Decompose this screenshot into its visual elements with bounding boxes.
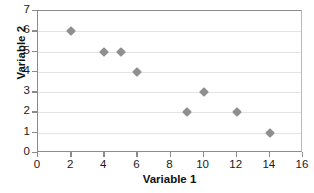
x-axis-tick-label: 2 (57, 159, 83, 171)
x-axis-tick-label: 6 (123, 159, 149, 171)
plot-area (37, 10, 302, 152)
data-point (199, 87, 209, 97)
data-point (265, 128, 275, 138)
data-point (116, 47, 126, 57)
x-axis-tick (269, 152, 270, 157)
y-axis-tick-label: 1 (6, 126, 30, 138)
x-axis-tick (203, 152, 204, 157)
y-axis-tick (32, 51, 37, 52)
y-axis-tick (32, 30, 37, 31)
scatter-chart: 01234567 0246810121416 Variable 1 Variab… (0, 0, 314, 193)
x-axis-tick-label: 16 (289, 159, 314, 171)
x-axis-title: Variable 1 (37, 174, 302, 186)
gridline (38, 31, 301, 32)
data-point (66, 26, 76, 36)
y-axis-tick (32, 71, 37, 72)
gridline (38, 92, 301, 93)
y-axis-tick (32, 111, 37, 112)
x-axis-tick-label: 10 (190, 159, 216, 171)
x-axis-tick-label: 0 (24, 159, 50, 171)
x-axis-tick-label: 4 (90, 159, 116, 171)
data-point (132, 67, 142, 77)
x-axis-tick-label: 14 (256, 159, 282, 171)
data-point (182, 107, 192, 117)
x-axis-tick (236, 152, 237, 157)
x-axis-tick (136, 152, 137, 157)
x-axis-tick-label: 12 (223, 159, 249, 171)
y-axis-tick (32, 91, 37, 92)
y-axis-tick (32, 10, 37, 11)
gridline (38, 133, 301, 134)
data-point (99, 47, 109, 57)
x-axis-tick (103, 152, 104, 157)
y-axis-tick-label: 0 (6, 146, 30, 158)
x-axis-tick-label: 8 (157, 159, 183, 171)
y-axis-tick (32, 132, 37, 133)
gridline (38, 52, 301, 53)
y-axis-title: Variable 2 (16, 0, 28, 113)
x-axis-tick (302, 152, 303, 157)
data-point (232, 107, 242, 117)
x-axis-tick (37, 152, 38, 157)
gridline (38, 72, 301, 73)
x-axis-tick (70, 152, 71, 157)
x-axis-tick (170, 152, 171, 157)
gridline (38, 112, 301, 113)
